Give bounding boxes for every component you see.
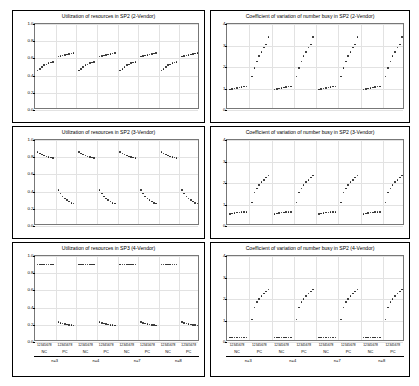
gridline-vertical [159, 140, 160, 224]
data-point [85, 64, 87, 66]
y-axis-tick-mark [225, 299, 227, 300]
data-point [234, 337, 236, 339]
x-axis-index-label: 12345678 [140, 344, 155, 348]
data-point [323, 212, 325, 214]
data-point [99, 189, 101, 191]
y-axis-tick-mark [33, 209, 35, 210]
gridline-vertical [272, 256, 273, 340]
data-point [107, 199, 109, 201]
data-point [73, 203, 75, 205]
data-point [268, 175, 270, 177]
gridline-horizontal [35, 110, 198, 111]
data-point [119, 264, 121, 266]
data-point [305, 51, 307, 53]
data-point [197, 203, 199, 205]
data-point [246, 86, 248, 88]
gridline-vertical [316, 24, 317, 108]
gridline-horizontal [35, 140, 198, 141]
data-point [93, 264, 95, 266]
data-point [82, 154, 84, 156]
x-axis-separator [226, 356, 404, 357]
gridline-horizontal [35, 325, 198, 326]
gridline-horizontal [35, 226, 198, 227]
data-point [261, 51, 263, 53]
plot-area: 43210 [226, 23, 404, 109]
data-point [340, 319, 342, 321]
data-point [39, 68, 41, 70]
data-point [370, 337, 372, 339]
data-point [308, 47, 310, 49]
gridline-horizontal [227, 321, 403, 322]
data-point [352, 179, 354, 181]
y-axis-tick-mark [225, 162, 227, 163]
data-point [397, 179, 399, 181]
x-axis-index-label: 12345678 [161, 344, 176, 348]
data-point [397, 47, 399, 49]
gridline-vertical [249, 24, 250, 108]
data-point [147, 54, 149, 56]
data-point [318, 337, 320, 339]
y-axis-tick-mark [33, 325, 35, 326]
data-point [251, 202, 253, 204]
data-point [124, 66, 126, 68]
data-point [58, 56, 60, 58]
gridline-vertical [338, 24, 339, 108]
data-point [343, 307, 345, 309]
gridline-vertical [56, 140, 57, 224]
x-axis-group-label: PC [346, 350, 351, 354]
data-point [181, 189, 183, 191]
data-point [372, 87, 374, 89]
panel-title: Coefficient of variation of number busy … [210, 129, 410, 135]
plot-area: 43210 [226, 139, 404, 225]
data-point [229, 337, 231, 339]
data-point [276, 88, 278, 90]
y-axis-tick-mark [33, 226, 35, 227]
gridline-horizontal [35, 256, 198, 257]
data-point [310, 44, 312, 46]
data-point [107, 54, 109, 56]
data-point [254, 307, 256, 309]
data-point [163, 68, 165, 70]
y-axis-tick-mark [225, 24, 227, 25]
data-point [165, 66, 167, 68]
data-point [298, 67, 300, 69]
data-point [330, 337, 332, 339]
data-point [268, 36, 270, 38]
data-point [93, 61, 95, 63]
data-point [161, 151, 163, 153]
gridline-vertical [361, 24, 362, 108]
data-point [71, 53, 73, 55]
data-point [229, 213, 231, 215]
data-point [68, 53, 70, 55]
chart-panel-cv-4v: Coefficient of variation of number busy … [210, 242, 410, 377]
data-point [261, 295, 263, 297]
data-point [176, 264, 178, 266]
chart-panel-util-3v: Utilization of resources in SP2 (3-Vendo… [12, 126, 205, 239]
data-point [385, 202, 387, 204]
x-axis-index-label: 12345678 [363, 344, 378, 348]
y-axis-tick-mark [225, 67, 227, 68]
data-point [58, 321, 60, 323]
x-axis-group-label: PC [62, 350, 67, 354]
data-point [155, 203, 157, 205]
x-axis-group-label: NC [279, 350, 285, 354]
data-point [93, 157, 95, 159]
data-point [367, 212, 369, 214]
data-point [363, 337, 365, 339]
y-axis-tick-mark [33, 76, 35, 77]
data-point [370, 87, 372, 89]
data-point [312, 175, 314, 177]
data-point [390, 188, 392, 190]
gridline-horizontal [35, 24, 198, 25]
gridline-vertical [97, 140, 98, 224]
data-point [243, 211, 245, 213]
data-point [110, 53, 112, 55]
data-point [258, 184, 260, 186]
plot-area: 1.00.80.60.40.20.0 [34, 139, 199, 225]
data-point [332, 86, 334, 88]
data-point [390, 301, 392, 303]
chart-panel-cv-2v: Coefficient of variation of number busy … [210, 10, 410, 123]
data-point [52, 157, 54, 159]
gridline-vertical [159, 24, 160, 108]
data-point [169, 64, 171, 66]
